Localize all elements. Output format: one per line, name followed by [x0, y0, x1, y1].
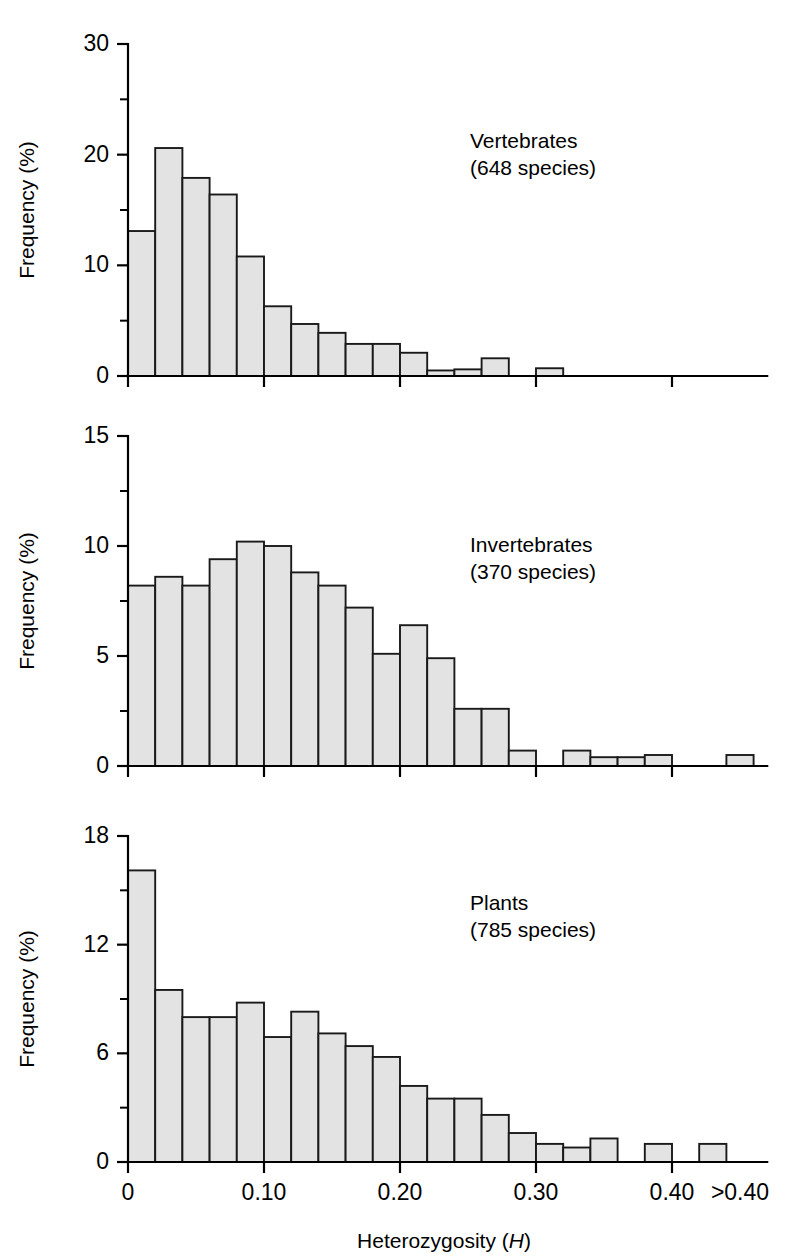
bar-plants-11	[427, 1099, 454, 1162]
chart-panel-invertebrates: 051015Invertebrates(370 species)Frequenc…	[15, 422, 767, 778]
bar-vertebrates-3	[210, 195, 237, 376]
bar-plants-13	[482, 1115, 509, 1162]
bar-vertebrates-9	[373, 344, 400, 376]
bar-plants-6	[291, 1012, 318, 1162]
bar-plants-0	[128, 870, 155, 1162]
panel-subtitle-invertebrates: (370 species)	[470, 560, 596, 583]
bar-vertebrates-10	[400, 353, 427, 376]
y-tick-label-invertebrates-5: 5	[96, 642, 109, 668]
bar-plants-8	[346, 1046, 373, 1162]
x-tick-label-1: 0.10	[242, 1179, 287, 1205]
x-axis-title-close: )	[524, 1229, 531, 1252]
bar-invertebrates-6	[291, 572, 318, 766]
bar-invertebrates-11	[427, 658, 454, 766]
bar-invertebrates-13	[482, 709, 509, 766]
bar-vertebrates-0	[128, 231, 155, 376]
bar-invertebrates-8	[346, 608, 373, 766]
bar-vertebrates-6	[291, 324, 318, 376]
bar-plants-3	[210, 1017, 237, 1162]
x-tick-label-4: 0.40	[650, 1179, 695, 1205]
bar-invertebrates-17	[590, 757, 617, 766]
bar-plants-15	[536, 1144, 563, 1162]
bar-invertebrates-4	[237, 542, 264, 766]
bar-plants-10	[400, 1086, 427, 1162]
figure-svg: 0102030Vertebrates(648 species)Frequency…	[0, 0, 790, 1256]
y-tick-label-invertebrates-0: 0	[96, 752, 109, 778]
bar-invertebrates-12	[454, 709, 481, 766]
x-axis-title: Heterozygosity (H)	[357, 1229, 531, 1252]
y-tick-label-invertebrates-10: 10	[83, 532, 109, 558]
y-tick-label-plants-12: 12	[83, 931, 109, 957]
bar-invertebrates-0	[128, 586, 155, 766]
bar-invertebrates-9	[373, 654, 400, 766]
bar-plants-1	[155, 990, 182, 1162]
bar-invertebrates-10	[400, 625, 427, 766]
y-tick-label-vertebrates-30: 30	[83, 30, 109, 56]
y-tick-label-vertebrates-0: 0	[96, 362, 109, 388]
bar-plants-12	[454, 1099, 481, 1162]
bar-vertebrates-8	[346, 344, 373, 376]
chart-panel-plants: 061218Plants(785 species)Frequency (%)	[15, 822, 767, 1174]
x-tick-label-3: 0.30	[514, 1179, 559, 1205]
y-axis-title-invertebrates: Frequency (%)	[15, 532, 38, 670]
bar-plants-14	[509, 1133, 536, 1162]
bar-plants-9	[373, 1057, 400, 1162]
bar-vertebrates-15	[536, 368, 563, 376]
bar-vertebrates-13	[482, 358, 509, 376]
bar-vertebrates-2	[182, 178, 209, 376]
bar-plants-4	[237, 1003, 264, 1162]
bar-vertebrates-7	[318, 333, 345, 376]
bar-vertebrates-1	[155, 148, 182, 376]
panel-title-invertebrates: Invertebrates	[470, 533, 593, 556]
y-tick-label-vertebrates-10: 10	[83, 251, 109, 277]
bar-invertebrates-5	[264, 546, 291, 766]
bar-invertebrates-22	[726, 755, 753, 766]
bar-invertebrates-19	[645, 755, 672, 766]
bar-plants-7	[318, 1033, 345, 1162]
chart-panel-vertebrates: 0102030Vertebrates(648 species)Frequency…	[15, 30, 767, 388]
bar-invertebrates-14	[509, 751, 536, 766]
bar-vertebrates-4	[237, 256, 264, 376]
bar-invertebrates-3	[210, 559, 237, 766]
panel-title-plants: Plants	[470, 891, 528, 914]
bar-invertebrates-2	[182, 586, 209, 766]
y-tick-label-invertebrates-15: 15	[83, 422, 109, 448]
bar-plants-17	[590, 1138, 617, 1162]
bar-plants-16	[563, 1148, 590, 1162]
x-axis-title-symbol: H	[509, 1229, 525, 1252]
heterozygosity-figure: 0102030Vertebrates(648 species)Frequency…	[0, 0, 790, 1256]
bar-invertebrates-7	[318, 586, 345, 766]
panel-subtitle-plants: (785 species)	[470, 918, 596, 941]
y-axis-title-vertebrates: Frequency (%)	[15, 141, 38, 279]
x-tick-label-5: >0.40	[711, 1179, 769, 1205]
bar-plants-5	[264, 1037, 291, 1162]
y-tick-label-vertebrates-20: 20	[83, 141, 109, 167]
y-axis-title-plants: Frequency (%)	[15, 930, 38, 1068]
y-tick-label-plants-18: 18	[83, 822, 109, 848]
y-tick-label-plants-0: 0	[96, 1148, 109, 1174]
bar-plants-21	[699, 1144, 726, 1162]
x-tick-label-0: 0	[122, 1179, 135, 1205]
panel-subtitle-vertebrates: (648 species)	[470, 156, 596, 179]
bar-invertebrates-1	[155, 577, 182, 766]
y-tick-label-plants-6: 6	[96, 1039, 109, 1065]
bar-plants-19	[645, 1144, 672, 1162]
bar-plants-2	[182, 1017, 209, 1162]
bar-vertebrates-5	[264, 306, 291, 376]
bar-invertebrates-16	[563, 751, 590, 766]
panel-title-vertebrates: Vertebrates	[470, 129, 577, 152]
x-axis-title-main: Heterozygosity (	[357, 1229, 509, 1252]
x-tick-label-2: 0.20	[378, 1179, 423, 1205]
bar-invertebrates-18	[618, 757, 645, 766]
